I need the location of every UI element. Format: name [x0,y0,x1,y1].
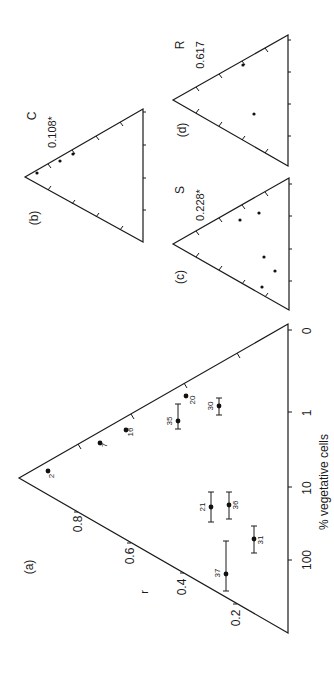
panel-label-b: (b) [27,211,41,226]
data-point [71,152,74,155]
data-point [273,269,276,272]
panel-label-d: (d) [175,123,189,138]
y-tick-label: 0.8 [71,515,85,532]
panel-label-a: (a) [22,560,36,575]
panel-a: 0.8 0.6 0.4 0.2 r 0 1 10 100 % vegetativ… [19,324,331,633]
point-label: 20 [188,395,197,404]
point-label: 21 [198,502,207,511]
point-label: 37 [213,568,222,577]
figure: (b) C 0.108* (d) R 0.617 [0,0,334,675]
category-label-r: R [173,40,187,49]
x-tick-label: 100 [300,550,314,570]
category-label-s: S [173,186,187,194]
panel-b: (b) C 0.108* [25,109,146,242]
data-point [262,255,265,258]
data-point [257,211,260,214]
data-point [35,171,38,174]
y-tick-label: 0.2 [229,609,243,626]
x-tick-label: 1 [300,409,314,416]
data-point-2 [46,469,51,474]
data-point [260,285,263,288]
point-label: 35 [165,416,174,425]
data-point [238,218,241,221]
y-tick-label: 0.6 [123,547,137,564]
point-label: 16 [126,427,135,436]
panel-d: (d) R 0.617 [173,35,291,166]
triangle-a [19,324,288,633]
point-label: 31 [256,535,265,544]
point-label: 36 [231,500,240,509]
data-point [58,159,61,162]
y-tick-label: 0.4 [175,578,189,595]
category-label-c: C [25,111,39,120]
x-tick-label: 10 [300,481,314,495]
data-point-37 [224,572,229,577]
data-point-35 [176,419,181,424]
triangle-d [173,35,288,166]
data-point [241,63,244,66]
value-label-s: 0.228* [194,188,206,221]
point-label: 7 [100,442,109,447]
data-point-21 [209,505,214,510]
data-point [252,112,255,115]
data-point-30 [217,404,222,409]
value-label-r: 0.617 [194,41,206,69]
triangle-b [25,109,143,242]
y-axis-label: r [138,590,150,594]
x-axis-label: % vegetative cells [317,434,331,530]
panel-label-c: (c) [173,270,187,284]
point-label: 2 [47,473,56,478]
point-label: 30 [206,401,215,410]
x-tick-label: 0 [300,327,314,334]
value-label-c: 0.108* [46,115,58,148]
panel-c: (c) S 0.228* [173,178,292,310]
triangle-c [173,178,289,310]
